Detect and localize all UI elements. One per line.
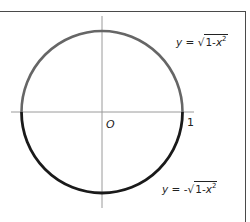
circle-diagram: O 1 y = √1-x2 y = -√1-x2	[0, 0, 250, 222]
radicand-prefix: 1-	[195, 183, 205, 195]
eq-radicand: 1-x2	[194, 181, 217, 195]
upper-curve-equation: y = √1-x2	[176, 36, 228, 48]
exponent: 2	[212, 182, 216, 190]
eq-equals: =	[182, 36, 197, 48]
origin-label: O	[106, 119, 115, 130]
lower-curve-equation: y = -√1-x2	[162, 183, 217, 195]
eq-equals: =	[168, 183, 183, 195]
x-intercept-label: 1	[187, 117, 194, 128]
radicand-prefix: 1-	[205, 36, 215, 48]
eq-radicand: 1-x2	[204, 34, 227, 48]
exponent: 2	[222, 35, 226, 43]
